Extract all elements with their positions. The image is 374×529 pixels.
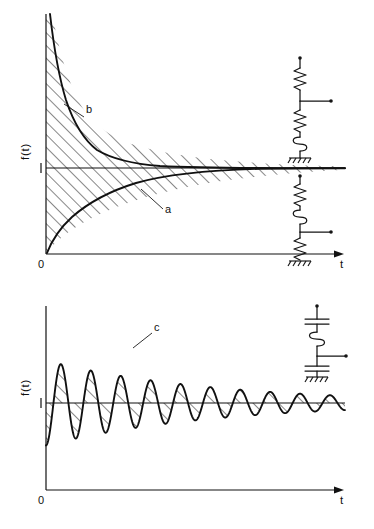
circuit-a-lower <box>288 174 333 266</box>
circuit-b-upper <box>288 56 333 163</box>
ground-icon-lower <box>288 261 311 266</box>
circuit-c <box>305 304 348 382</box>
inductor-icon-c <box>310 332 325 346</box>
ground-icon-c <box>305 377 328 382</box>
ground-icon-upper <box>288 158 311 163</box>
y-axis-label-top: f(t) <box>19 143 31 160</box>
capacitor-icon-c-1 <box>305 319 329 324</box>
terminal-dot-output-upper <box>329 99 333 103</box>
terminal-dot-output-lower <box>329 230 333 234</box>
origin-label-top: 0 <box>38 258 44 270</box>
capacitor-icon-c-2 <box>305 366 329 371</box>
y-axis-label-bottom: f(t) <box>19 379 31 396</box>
curve-label-b: b <box>86 103 92 115</box>
x-axis-arrowhead-bottom <box>334 487 344 494</box>
inductor-icon-upper <box>293 137 307 151</box>
terminal-dot-output-c <box>344 354 348 358</box>
hatch-region-curve-c <box>40 303 355 493</box>
x-axis-arrowhead-top <box>334 251 344 258</box>
leader-line-c <box>133 333 152 348</box>
panel-bottom: c f(t) t 0 <box>0 278 374 529</box>
figure-root: b a f(t) t 0 <box>0 0 374 529</box>
x-axis-label-bottom: t <box>340 494 344 506</box>
curve-label-a: a <box>165 203 172 215</box>
inductor-icon-lower <box>293 210 307 224</box>
x-axis-label-top: t <box>340 258 344 270</box>
top-panel-svg: b a f(t) t 0 <box>0 0 374 278</box>
curve-label-c: c <box>154 321 160 333</box>
panel-top: b a f(t) t 0 <box>0 0 374 278</box>
origin-label-bottom: 0 <box>38 494 44 506</box>
resistor-icon-lower-2 <box>294 238 306 260</box>
resistor-icon-upper-2 <box>294 110 306 132</box>
resistor-icon-lower-1 <box>294 184 306 206</box>
resistor-icon-upper-1 <box>294 68 306 90</box>
bottom-panel-svg: c f(t) t 0 <box>0 278 374 529</box>
